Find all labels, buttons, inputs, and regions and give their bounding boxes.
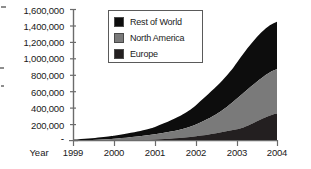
legend-swatch-icon [114,33,124,43]
legend-label: Europe [130,49,158,59]
x-tick-label: 2004 [254,147,300,158]
x-tick-label: 2002 [173,147,219,158]
x-axis-tick-labels: Year 1999 2000 2001 2002 2003 2004 [0,147,311,165]
legend-label: Rest of World [130,17,182,27]
legend-swatch-icon [114,17,124,27]
legend-item-north-america: North America [114,30,202,45]
stacked-area-chart: 1,600,000 1,400,000 1,200,000 1,000,000 … [0,0,311,169]
legend-item-rest-of-world: Rest of World [114,14,202,29]
legend-swatch-icon [114,49,124,59]
legend-item-europe: Europe [114,46,202,61]
x-tick-label: 1999 [50,147,96,158]
legend-label: North America [130,33,184,43]
chart-legend: Rest of World North America Europe [108,10,203,63]
x-tick-label: 2000 [91,147,137,158]
x-tick-label: 2001 [132,147,178,158]
